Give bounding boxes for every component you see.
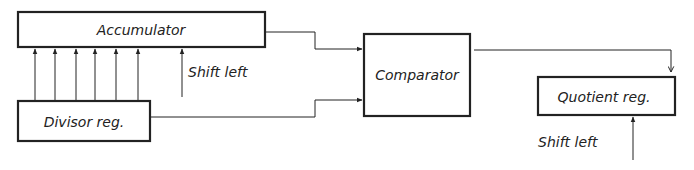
comparator-block: Comparator <box>364 34 470 116</box>
quotient-shift-label: Shift left <box>538 134 598 150</box>
accumulator-shift-control: Shift left <box>182 49 248 97</box>
comparator-label: Comparator <box>375 67 460 83</box>
division-unit-diagram: Accumulator Divisor reg. Shift left <box>0 0 694 170</box>
accumulator-to-comparator-line <box>265 32 362 49</box>
quotient-reg-label: Quotient reg. <box>558 89 651 105</box>
divisor-reg-label: Divisor reg. <box>44 114 125 130</box>
parallel-transfer-arrows <box>35 49 138 100</box>
divisor-to-comparator-line <box>150 100 362 117</box>
quotient-shift-control: Shift left <box>538 117 633 160</box>
accumulator-block: Accumulator <box>18 12 265 47</box>
accumulator-shift-label: Shift left <box>188 64 248 80</box>
divisor-reg-block: Divisor reg. <box>18 101 150 141</box>
comparator-to-quotient-line <box>474 50 671 72</box>
accumulator-label: Accumulator <box>96 22 187 38</box>
quotient-reg-block: Quotient reg. <box>538 77 675 115</box>
